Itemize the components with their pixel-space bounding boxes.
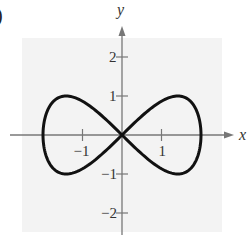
panel-label: ): [0, 4, 3, 27]
x-tick-label: −1: [74, 143, 90, 159]
y-tick-label: −1: [101, 166, 117, 182]
y-axis-arrow-icon: [119, 26, 126, 36]
y-axis-label: y: [115, 1, 125, 19]
y-tick-label: 2: [109, 49, 117, 65]
y-tick-label: −2: [101, 205, 117, 221]
x-tick-label: 1: [159, 143, 167, 159]
y-tick-label: 1: [109, 88, 117, 104]
x-axis-arrow-icon: [224, 132, 234, 139]
parametric-curve-chart: ) −1121−1−2 y x: [0, 0, 251, 244]
x-axis-label: x: [238, 126, 246, 143]
